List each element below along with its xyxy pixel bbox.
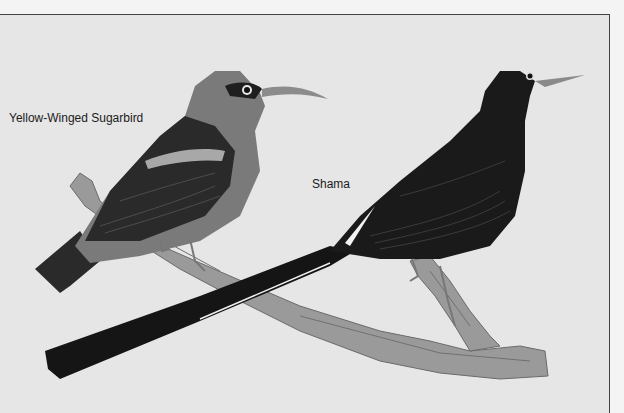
label-yellow-winged-sugarbird: Yellow-Winged Sugarbird: [9, 111, 143, 125]
illustration-plate: Yellow-Winged Sugarbird Shama: [0, 14, 610, 413]
label-shama: Shama: [312, 177, 350, 191]
shama-body: [330, 71, 535, 259]
bird-illustration: [0, 15, 609, 413]
page-header-fragment: [440, 0, 624, 6]
